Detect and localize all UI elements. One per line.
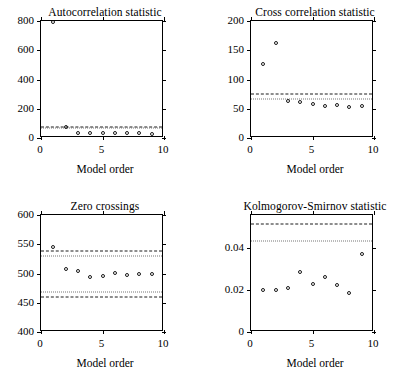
- y-tick-label: 0.04: [210, 241, 244, 253]
- x-tick-label: 0: [37, 143, 43, 155]
- reference-line-dashed-3: [41, 297, 162, 298]
- y-tick-label: 150: [210, 43, 244, 55]
- data-point: [125, 273, 129, 277]
- plot-inner-cross_correlation: [251, 21, 372, 136]
- x-tick: [41, 330, 42, 334]
- y-tick-right: [162, 80, 166, 81]
- x-tick: [41, 136, 42, 140]
- figure-panel-grid: Autocorrelation statistic020040060080005…: [0, 0, 420, 388]
- y-tick: [37, 50, 41, 51]
- panel-kolmogorov_smirnov: Kolmogorov-Smirnov statistic00.020.04051…: [210, 194, 420, 388]
- x-axis-label-autocorrelation: Model order: [0, 163, 210, 175]
- x-tick-label: 10: [158, 337, 169, 349]
- y-tick-right: [162, 274, 166, 275]
- y-tick: [37, 21, 41, 22]
- data-point: [137, 131, 141, 135]
- x-tick: [374, 136, 375, 140]
- data-point: [113, 271, 117, 275]
- data-point: [261, 62, 265, 66]
- x-axis-label-cross_correlation: Model order: [210, 163, 420, 175]
- x-tick: [313, 136, 314, 140]
- y-tick: [37, 274, 41, 275]
- reference-line-dashed-0: [251, 224, 372, 225]
- data-point: [88, 131, 92, 135]
- y-tick: [247, 21, 251, 22]
- y-tick-right: [372, 109, 376, 110]
- reference-line-dashed-0: [41, 251, 162, 252]
- y-tick: [247, 109, 251, 110]
- y-tick-right: [372, 21, 376, 22]
- x-tick: [251, 330, 252, 334]
- y-tick: [37, 244, 41, 245]
- x-tick: [313, 330, 314, 334]
- x-tick-top: [41, 17, 42, 21]
- x-tick-top: [251, 211, 252, 215]
- x-tick: [103, 136, 104, 140]
- panel-title-kolmogorov_smirnov: Kolmogorov-Smirnov statistic: [210, 200, 420, 212]
- x-tick-top: [374, 211, 375, 215]
- plot-area-zero_crossings: [40, 214, 163, 331]
- plot-inner-autocorrelation: [41, 21, 162, 136]
- data-point: [335, 283, 339, 287]
- x-axis-label-zero_crossings: Model order: [0, 357, 210, 369]
- y-tick-right: [162, 50, 166, 51]
- x-tick-label: 0: [247, 337, 253, 349]
- reference-line-dotted-1: [251, 98, 372, 99]
- reference-line-dotted-1: [41, 128, 162, 129]
- plot-area-autocorrelation: [40, 20, 163, 137]
- data-point: [298, 100, 302, 104]
- data-point: [347, 105, 351, 109]
- data-point: [125, 131, 129, 135]
- x-tick-label: 5: [99, 337, 105, 349]
- x-tick-label: 5: [309, 337, 315, 349]
- data-point: [88, 275, 92, 279]
- y-tick: [37, 109, 41, 110]
- x-tick-top: [103, 17, 104, 21]
- data-point: [76, 269, 80, 273]
- x-tick: [103, 330, 104, 334]
- x-tick: [164, 330, 165, 334]
- x-tick: [374, 330, 375, 334]
- reference-line-dotted-2: [41, 292, 162, 293]
- data-point: [286, 286, 290, 290]
- y-tick-label: 550: [0, 237, 34, 249]
- data-point: [64, 267, 68, 271]
- y-tick-label: 600: [0, 43, 34, 55]
- y-tick-label: 500: [0, 267, 34, 279]
- data-point: [51, 21, 55, 24]
- y-tick-right: [372, 248, 376, 249]
- plot-area-kolmogorov_smirnov: [250, 214, 373, 331]
- x-tick-top: [374, 17, 375, 21]
- y-tick-label: 0.02: [210, 283, 244, 295]
- y-tick-label: 450: [0, 296, 34, 308]
- x-tick-top: [164, 17, 165, 21]
- y-tick-label: 800: [0, 14, 34, 26]
- x-tick-label: 10: [368, 143, 379, 155]
- y-tick-label: 400: [0, 73, 34, 85]
- y-tick-label: 100: [210, 73, 244, 85]
- x-tick-label: 5: [99, 143, 105, 155]
- x-tick-top: [164, 211, 165, 215]
- data-point: [64, 125, 68, 129]
- x-tick-top: [251, 17, 252, 21]
- data-point: [261, 288, 265, 292]
- plot-inner-kolmogorov_smirnov: [251, 215, 372, 330]
- y-tick-label: 600: [0, 208, 34, 220]
- plot-area-cross_correlation: [250, 20, 373, 137]
- y-tick-right: [372, 290, 376, 291]
- data-point: [323, 275, 327, 279]
- x-axis-label-kolmogorov_smirnov: Model order: [210, 357, 420, 369]
- y-tick-label: 200: [210, 14, 244, 26]
- y-tick-label: 0: [210, 131, 244, 143]
- data-point: [323, 104, 327, 108]
- y-tick: [37, 80, 41, 81]
- data-point: [137, 272, 141, 276]
- data-point: [101, 131, 105, 135]
- y-tick-label: 50: [210, 102, 244, 114]
- x-tick-label: 10: [368, 337, 379, 349]
- reference-line-dotted-1: [41, 255, 162, 256]
- x-tick-label: 10: [158, 143, 169, 155]
- x-tick-label: 0: [37, 337, 43, 349]
- y-tick: [247, 290, 251, 291]
- data-point: [311, 282, 315, 286]
